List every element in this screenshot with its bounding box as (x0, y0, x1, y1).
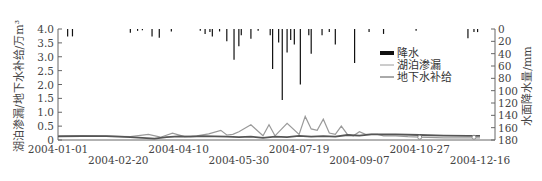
right-tick-label: 160 (498, 122, 518, 134)
x-axis: 2004-01-012004-02-202004-04-102004-05-30… (28, 140, 511, 166)
right-tick-label: 20 (498, 35, 511, 47)
line-marker (472, 135, 476, 139)
left-tick-label: 3.5 (37, 37, 54, 49)
right-tick-label: 40 (498, 48, 511, 60)
legend-swatch-bar (380, 51, 394, 55)
x-tick-label: 2004-07-19 (269, 143, 330, 155)
left-tick-label: 2.0 (37, 79, 54, 91)
legend-item-recharge: 地下水补给 (380, 71, 452, 84)
left-tick-label: 1.5 (37, 92, 54, 104)
left-tick-label: 2.5 (37, 65, 54, 77)
left-tick-label: 1.0 (37, 106, 54, 118)
x-tick-label: 2004-05-30 (209, 154, 270, 166)
right-tick-label: 120 (498, 97, 518, 109)
right-axis-title: 水面降水量/mm (520, 46, 534, 126)
right-axis-title-text: 水面降水量/mm (520, 46, 534, 126)
right-tick-label: 0 (498, 23, 505, 35)
series-lines (58, 116, 480, 139)
right-tick-label: 60 (498, 60, 511, 72)
right-tick-label: 100 (498, 85, 518, 97)
legend-label-recharge: 地下水补给 (397, 71, 452, 84)
right-axis: 020406080100120140160180 (491, 23, 518, 146)
x-tick-label: 2004-09-07 (329, 154, 390, 166)
x-tick-label: 2004-12-16 (450, 154, 511, 166)
x-tick-label: 2004-02-20 (88, 154, 149, 166)
left-axis-title: 湖泊渗漏/地下水补给/万m³ (12, 20, 26, 152)
legend: 降水 湖泊渗漏 地下水补给 (380, 46, 452, 84)
left-axis-title-text: 湖泊渗漏/地下水补给/万m³ (12, 20, 26, 152)
x-tick-label: 2004-04-10 (148, 143, 209, 155)
left-tick-label: 0.5 (37, 120, 54, 132)
x-tick-label: 2004-01-01 (28, 143, 89, 155)
legend-item-leakage: 湖泊渗漏 (380, 58, 441, 72)
left-tick-label: 3.0 (37, 51, 54, 63)
right-tick-label: 80 (498, 72, 511, 84)
legend-label-leakage: 湖泊渗漏 (397, 58, 441, 72)
right-tick-label: 180 (498, 134, 518, 146)
x-tick-label: 2004-10-27 (389, 143, 450, 155)
line-marker (418, 135, 422, 139)
right-tick-label: 140 (498, 109, 518, 121)
chart: 湖泊渗漏/地下水补给/万m³ 水面降水量/mm 4.03.53.02.52.01… (0, 0, 542, 181)
legend-item-precip: 降水 (380, 46, 419, 60)
left-tick-label: 4.0 (37, 23, 54, 35)
legend-label-precip: 降水 (397, 46, 419, 60)
left-axis: 4.03.53.02.52.01.51.00.50 (37, 23, 62, 146)
